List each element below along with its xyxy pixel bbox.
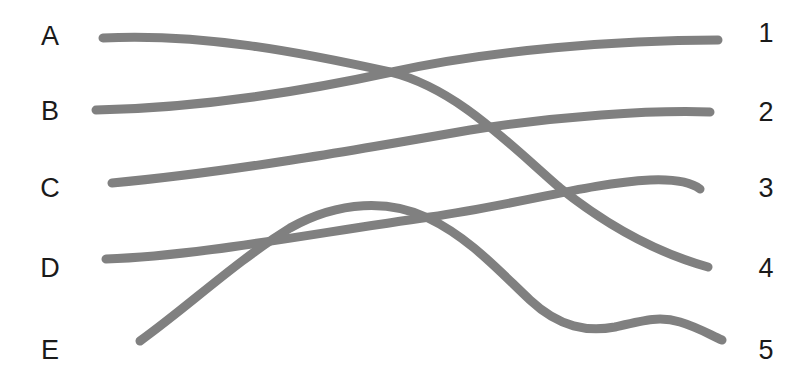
curve-group bbox=[96, 37, 722, 341]
left-node-label-b[interactable]: B bbox=[41, 98, 59, 125]
right-node-label-2[interactable]: 2 bbox=[758, 99, 773, 126]
left-node-label-a[interactable]: A bbox=[41, 23, 59, 50]
matching-diagram: ABCDE 12345 bbox=[0, 0, 810, 382]
curves-canvas bbox=[0, 0, 810, 382]
left-node-label-e[interactable]: E bbox=[41, 337, 59, 364]
connector-c-to-2[interactable] bbox=[112, 112, 710, 183]
left-node-label-d[interactable]: D bbox=[40, 255, 60, 282]
right-node-label-5[interactable]: 5 bbox=[758, 337, 773, 364]
left-node-label-c[interactable]: C bbox=[40, 175, 60, 202]
connector-e-to-5[interactable] bbox=[140, 206, 722, 341]
right-node-label-4[interactable]: 4 bbox=[758, 255, 773, 282]
right-node-label-1[interactable]: 1 bbox=[758, 20, 773, 47]
right-node-label-3[interactable]: 3 bbox=[758, 175, 773, 202]
